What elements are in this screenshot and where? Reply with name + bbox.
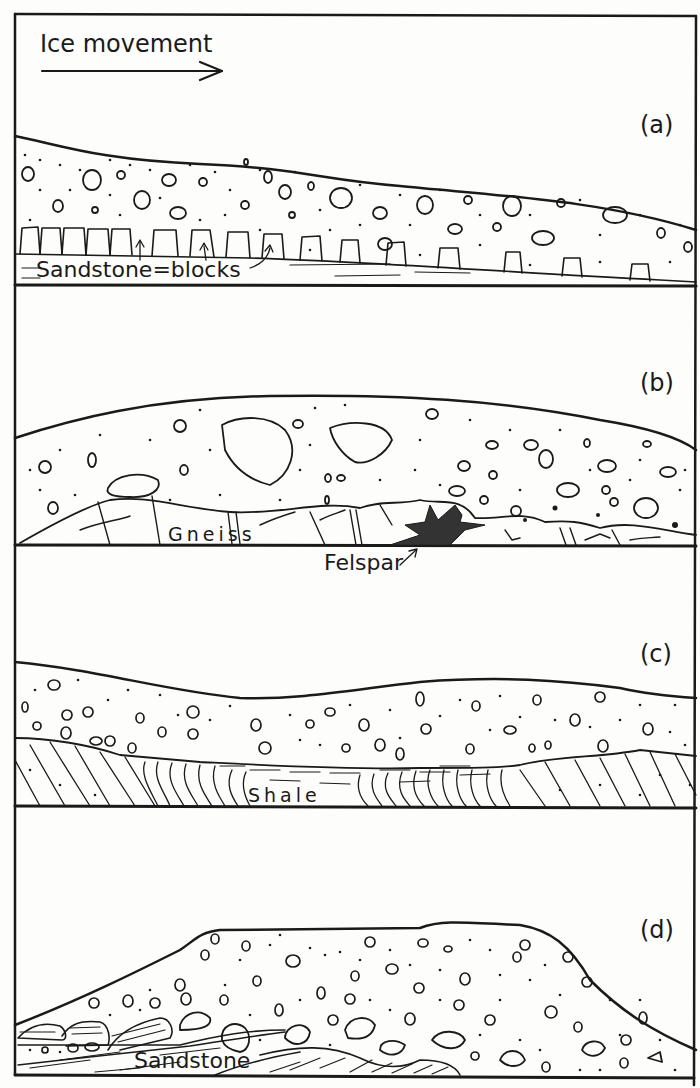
ice-movement-title: Ice movement [40,30,212,58]
panel-d: (d) Sandstone [15,916,696,1078]
panel-a-rock-label: Sandstone=blocks [36,257,241,282]
glacial-till-figure: Ice movement (a) [0,0,700,1088]
panel-b: (b) Gneiss Felspar [15,369,696,575]
panel-c-rock-label: Shale [248,784,321,806]
panel-id-a: (a) [640,111,673,139]
felspar-crystal [390,505,485,545]
panel-c: (c) Shale [15,640,696,808]
felspar-annotation: Felspar [324,550,404,575]
panel-id-b: (b) [640,369,674,397]
panel-d-rock-label: Sandstone [134,1048,250,1073]
panel-a: (a) [15,111,696,286]
panel-id-d: (d) [640,916,674,944]
right-arrow-icon [42,62,222,80]
panel-b-rock-label: Gneiss [168,523,256,545]
panel-id-c: (c) [640,640,672,668]
